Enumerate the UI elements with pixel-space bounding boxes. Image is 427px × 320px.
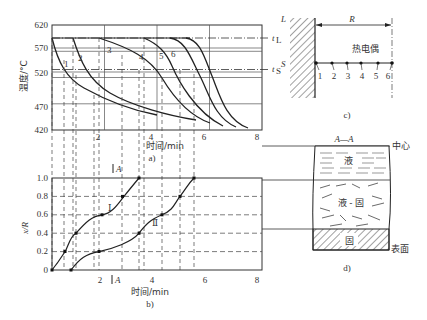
ts-label: t <box>272 64 275 74</box>
point-label-2: 2 <box>332 71 337 81</box>
curve-label-1: 1 <box>64 59 69 69</box>
b-ytick-0: 0 <box>44 265 49 275</box>
surface-label: 表面 <box>391 243 409 254</box>
tl-label: t <box>272 33 275 43</box>
curve-label-6: 6 <box>171 49 176 59</box>
mold-wall <box>290 18 315 98</box>
d-caption: d) <box>343 263 351 273</box>
panel-b-isotherm-chart: Ⅰ Ⅱ A A 1.0 0.8 0.6 0.4 0.2 0 2 4 6 8 x/… <box>20 164 262 309</box>
curve-i-liquidus <box>52 178 139 270</box>
c-caption: c) <box>344 110 351 120</box>
curve-2 <box>73 38 196 120</box>
a-caption: a) <box>149 153 156 163</box>
tl-subscript: L <box>276 35 282 45</box>
r-label: R <box>348 14 355 24</box>
a-xtick-6: 6 <box>202 132 207 142</box>
b-ytick-0.8: 0.8 <box>37 191 49 201</box>
liquid-label: 液 <box>344 155 353 166</box>
a-xtick-2: 2 <box>96 132 101 142</box>
b-ytick-1.0: 1.0 <box>37 173 49 183</box>
thermocouple-label: 热电偶 <box>352 43 379 54</box>
a-ytick-420: 420 <box>35 125 49 135</box>
point-label-5: 5 <box>374 71 379 81</box>
a-xlabel: 时间/min <box>146 140 184 151</box>
a-ytick-570: 570 <box>35 43 49 53</box>
a-ytick-470: 470 <box>35 102 49 112</box>
s-label: S <box>281 59 286 69</box>
point-label-4: 4 <box>360 71 365 81</box>
b-ytick-0.4: 0.4 <box>37 228 49 238</box>
b-ylabel: x/R <box>20 222 30 235</box>
center-label: 中心 <box>392 140 410 151</box>
section-marker-a-top: A <box>115 164 122 174</box>
curve-label-4: 4 <box>139 52 144 62</box>
curve-label-3: 3 <box>107 45 112 55</box>
panel-d-section-view: A—A 中心 液 液 - 固 固 表面 d) <box>262 134 410 273</box>
panel-a-cooling-chart: t L t S 1 2 3 4 5 6 620 570 520 470 420 … <box>18 20 282 163</box>
a-ylabel: 温度/°C <box>18 60 29 92</box>
b-xlabel: 时间/min <box>131 286 169 297</box>
curve-label-5: 5 <box>159 51 164 61</box>
section-marker-a-bottom: A <box>114 275 121 285</box>
panel-c-thermocouple-setup: L S R 热电偶 1 2 3 4 5 6 c) <box>280 14 394 120</box>
b-xtick-8: 8 <box>255 275 260 285</box>
curve-ii-label: Ⅱ <box>152 218 158 228</box>
curve-i-label: Ⅰ <box>108 203 112 213</box>
curve-label-2: 2 <box>78 53 83 63</box>
mushy-label: 液 - 固 <box>338 197 365 208</box>
a-xtick-8: 8 <box>255 132 260 142</box>
solid-label: 固 <box>345 236 354 246</box>
figure-canvas: t L t S 1 2 3 4 5 6 620 570 520 470 420 … <box>0 0 427 320</box>
point-label-1: 1 <box>318 71 323 81</box>
a-ytick-520: 520 <box>35 68 49 78</box>
section-label: A—A <box>334 134 355 144</box>
b-ytick-0.2: 0.2 <box>37 246 48 256</box>
b-xtick-2: 2 <box>98 275 103 285</box>
b-caption: b) <box>146 299 154 309</box>
a-ytick-620: 620 <box>35 20 49 30</box>
point-label-3: 3 <box>346 71 351 81</box>
b-xtick-6: 6 <box>203 275 208 285</box>
l-label: L <box>280 14 286 24</box>
b-ytick-0.6: 0.6 <box>37 209 49 219</box>
data-points <box>51 177 196 272</box>
point-label-6: 6 <box>386 71 391 81</box>
curve-ii-solidus <box>71 178 194 270</box>
b-xtick-4: 4 <box>150 275 155 285</box>
